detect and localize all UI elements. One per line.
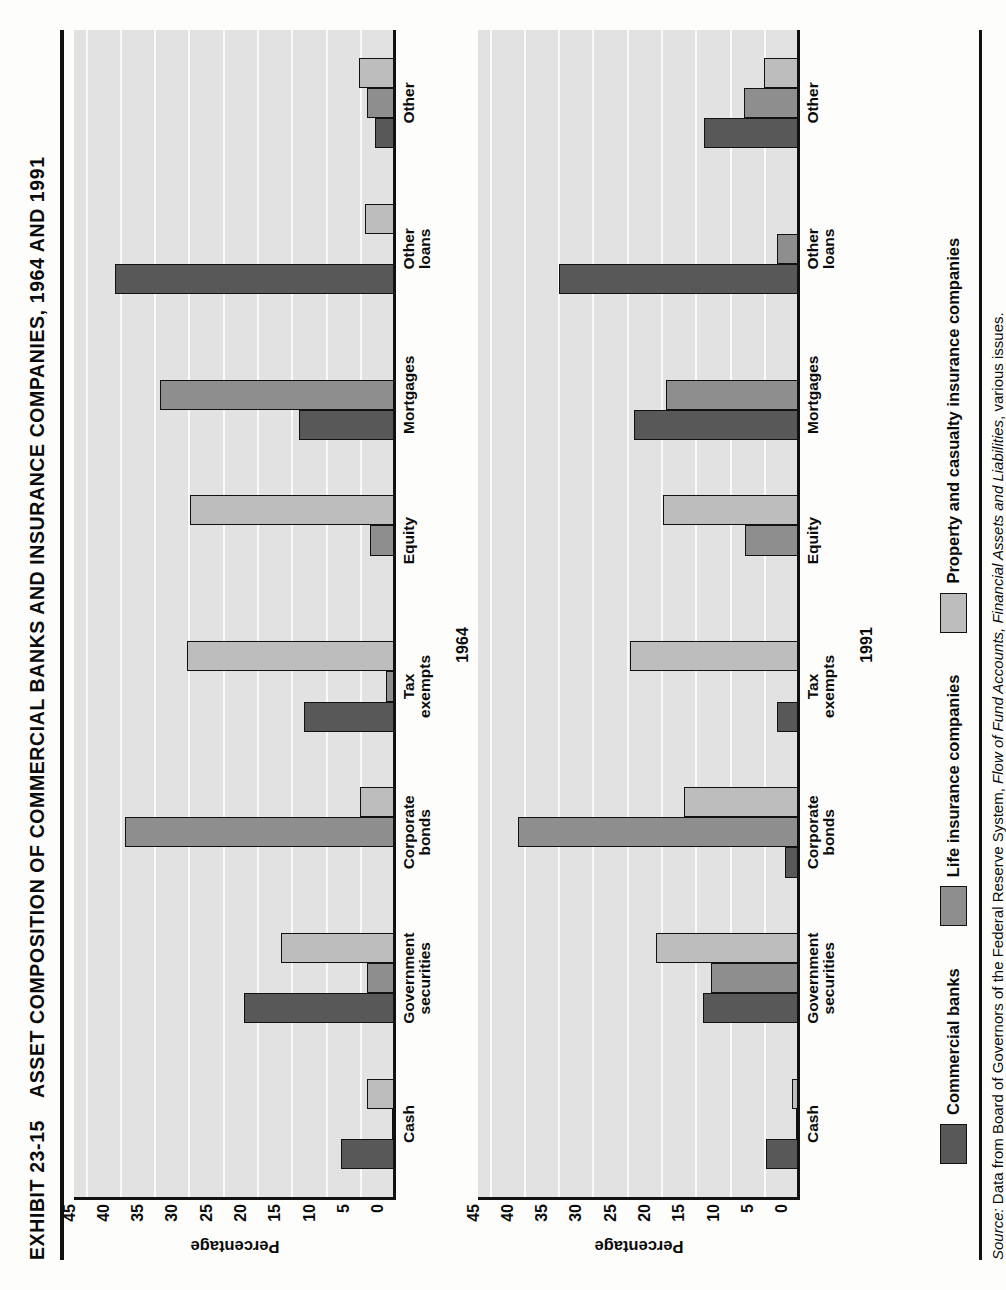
y-tick-10: 10 [705,1204,723,1222]
source-lead: Source: [989,1208,1006,1260]
x-axis-category-labels: CashGovernment securitiesCorporate bonds… [800,30,856,1197]
bar [187,641,396,671]
bar [766,1139,800,1169]
legend-label: Life insurance companies [944,675,963,878]
legend-item: Life insurance companies [940,675,967,927]
bar [341,1139,396,1169]
y-tick-15: 15 [670,1204,688,1222]
bar [745,526,800,556]
x-tick-label: Cash [401,1105,417,1143]
bar [304,702,396,732]
x-tick-label: Corporate bonds [805,795,837,869]
y-tick-20: 20 [636,1204,654,1222]
x-tick-label: Mortgages [401,356,417,434]
gridline [188,30,190,1197]
gridline [223,30,225,1197]
bar [115,264,396,294]
x-tick-label: Cash [805,1105,821,1143]
x-tick-label: Tax exempts [401,655,433,718]
y-tick-0: 0 [773,1204,791,1213]
legend-label: Commercial banks [944,968,963,1115]
bar [711,963,800,993]
y-tick-40: 40 [95,1204,113,1222]
y-tick-5: 5 [739,1204,757,1213]
bar [656,933,800,963]
exhibit-label: EXHIBIT 23-15 [26,1120,49,1260]
legend-swatch-3 [940,593,967,633]
bar [367,1079,396,1109]
plot-area: Percentage051015202530354045CashGovernme… [74,30,396,1260]
gridline [86,30,88,1197]
gridline [627,30,629,1197]
y-tick-30: 30 [163,1204,181,1222]
gridline [661,30,663,1197]
plot-grid: CashGovernment securitiesCorporate bonds… [478,30,800,1200]
y-tick-45: 45 [61,1204,79,1222]
x-tick-label: Equity [805,517,821,564]
legend-label: Property and casualty insurance companie… [944,238,963,584]
x-tick-label: Tax exempts [805,655,837,718]
source-italic-title: Flow of Fund Accounts, Financial Assets … [989,420,1006,784]
legend-swatch-1 [940,1124,967,1164]
title-rule [60,30,64,1260]
chart-legend: Commercial banksLife insurance companies… [940,30,967,1260]
panel-year-label: 1964 [454,30,472,1260]
figure-title-row: EXHIBIT 23-15 ASSET COMPOSITION OF COMME… [26,30,49,1260]
y-tick-35: 35 [129,1204,147,1222]
bar [744,88,800,118]
y-axis-ticks: 051015202530354045 [74,1200,396,1234]
y-tick-25: 25 [198,1204,216,1222]
gridline [695,30,697,1197]
y-axis-title-text: Percentage [175,1237,295,1256]
x-tick-label: Government securities [401,933,433,1024]
bar [666,380,800,410]
bar [764,58,800,88]
gridline [524,30,526,1197]
source-rule [979,30,982,1260]
y-axis-title: Percentage [74,1234,396,1260]
legend-swatch-2 [940,886,967,926]
gridline [490,30,492,1197]
source-note: Source: Data from Board of Governors of … [989,30,1006,1260]
x-tick-label: Other [401,82,417,123]
chart-panel-1991: Percentage051015202530354045CashGovernme… [478,30,878,1260]
bar [367,963,396,993]
bar [367,88,396,118]
y-tick-0: 0 [369,1204,387,1213]
x-tick-label: Equity [401,517,417,564]
bar [190,495,396,525]
y-tick-45: 45 [465,1204,483,1222]
source-text-after: , various issues. [989,312,1006,420]
y-axis-ticks: 051015202530354045 [478,1200,800,1234]
legend-item: Property and casualty insurance companie… [940,238,967,633]
y-tick-25: 25 [602,1204,620,1222]
panel-year-label: 1991 [858,30,876,1260]
y-tick-40: 40 [499,1204,517,1222]
page-title: ASSET COMPOSITION OF COMMERCIAL BANKS AN… [26,156,49,1098]
y-tick-35: 35 [533,1204,551,1222]
bar [518,817,800,847]
x-tick-label: Other loans [401,228,433,269]
bar [365,204,397,234]
y-tick-5: 5 [335,1204,353,1213]
bar [684,787,800,817]
bar [634,410,800,440]
gridline [120,30,122,1197]
y-axis-title: Percentage [478,1234,800,1260]
bar [244,993,396,1023]
x-tick-label: Other loans [805,228,837,269]
y-tick-10: 10 [301,1204,319,1222]
y-tick-30: 30 [567,1204,585,1222]
chart-panels: Percentage051015202530354045CashGovernme… [74,30,878,1260]
bar [359,58,396,88]
bar [360,787,396,817]
chart-panel-1964: Percentage051015202530354045CashGovernme… [74,30,474,1260]
bar [160,380,396,410]
bar [281,933,396,963]
x-tick-label: Other [805,82,821,123]
gridline [154,30,156,1197]
x-tick-label: Mortgages [805,356,821,434]
bar [704,118,800,148]
